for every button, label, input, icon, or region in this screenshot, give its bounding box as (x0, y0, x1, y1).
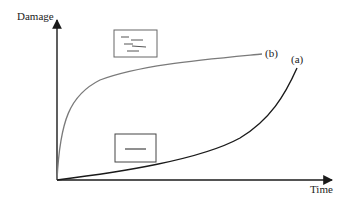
inset-single-crack (115, 134, 156, 162)
inset-many-microcracks (114, 30, 157, 57)
y-axis-label: Damage (17, 10, 54, 22)
damage-time-diagram: Damage Time (b) (a) (0, 0, 355, 205)
curve-a-label: (a) (291, 53, 304, 66)
x-axis-label: Time (310, 183, 333, 195)
curve-b (57, 54, 262, 180)
curve-b-label: (b) (265, 47, 278, 60)
curve-a (57, 68, 297, 180)
